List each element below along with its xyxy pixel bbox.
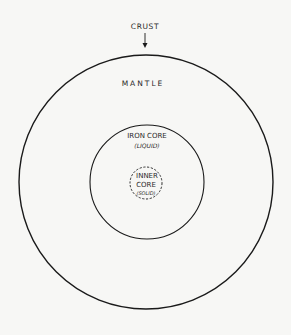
inner-core-label-line1: INNER [136,172,158,180]
iron-core-state-label: (LIQUID) [134,142,159,149]
mantle-label: MANTLE [122,79,165,88]
iron-core-label: IRON CORE [127,132,167,140]
inner-core-state-label: (SOLID) [136,190,155,196]
earth-layers-diagram: CRUST MANTLE IRON CORE (LIQUID) INNER CO… [0,0,291,335]
inner-core-label-line2: CORE [136,181,156,189]
crust-label: CRUST [131,22,159,31]
crust-arrow-head [143,43,148,48]
